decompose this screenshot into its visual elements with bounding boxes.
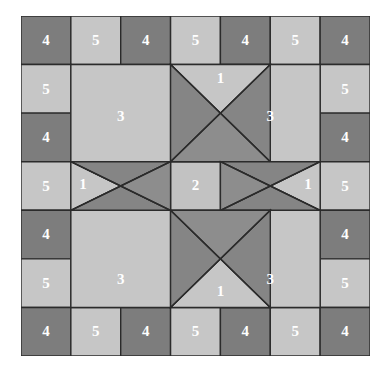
patch-label-4: 4 [142, 323, 150, 339]
patch-label-3: 3 [267, 271, 275, 287]
patch-label-4: 4 [42, 226, 50, 242]
patch-label-4: 4 [42, 129, 50, 145]
patch-label-5: 5 [42, 275, 50, 291]
patch-label-4: 4 [341, 323, 349, 339]
patch-label-3: 3 [117, 271, 125, 287]
patch-label-5: 5 [192, 323, 200, 339]
patch-label-5: 5 [341, 178, 349, 194]
quilt-block-svg: 454545455445544554545454333321111 [21, 16, 370, 356]
patch-label-5: 5 [92, 323, 100, 339]
patch-label-1: 1 [217, 70, 225, 86]
patch-label-5: 5 [192, 32, 200, 48]
patch-label-3: 3 [117, 108, 125, 124]
patch-label-3: 3 [267, 108, 275, 124]
patch-label-5: 5 [341, 81, 349, 97]
patch-label-1: 1 [217, 283, 225, 299]
patch-label-1: 1 [304, 176, 312, 192]
patch-label-4: 4 [341, 129, 349, 145]
patch-label-4: 4 [42, 32, 50, 48]
patch-label-4: 4 [341, 226, 349, 242]
patch-label-4: 4 [341, 32, 349, 48]
corner-square-bottom-left [71, 210, 171, 307]
patch-label-1: 1 [79, 176, 87, 192]
patch-label-5: 5 [42, 81, 50, 97]
patch-label-2: 2 [192, 177, 200, 193]
patch-label-5: 5 [341, 275, 349, 291]
patch-label-4: 4 [142, 32, 150, 48]
patch-label-5: 5 [291, 32, 299, 48]
patch-label-4: 4 [42, 323, 50, 339]
patch-label-5: 5 [92, 32, 100, 48]
quilt-block-canvas: 454545455445544554545454333321111 [21, 16, 370, 356]
patch-label-4: 4 [242, 32, 250, 48]
patch-label-5: 5 [291, 323, 299, 339]
patch-label-5: 5 [42, 178, 50, 194]
quilt-block-figure: 454545455445544554545454333321111 [0, 0, 389, 378]
patch-label-4: 4 [242, 323, 250, 339]
